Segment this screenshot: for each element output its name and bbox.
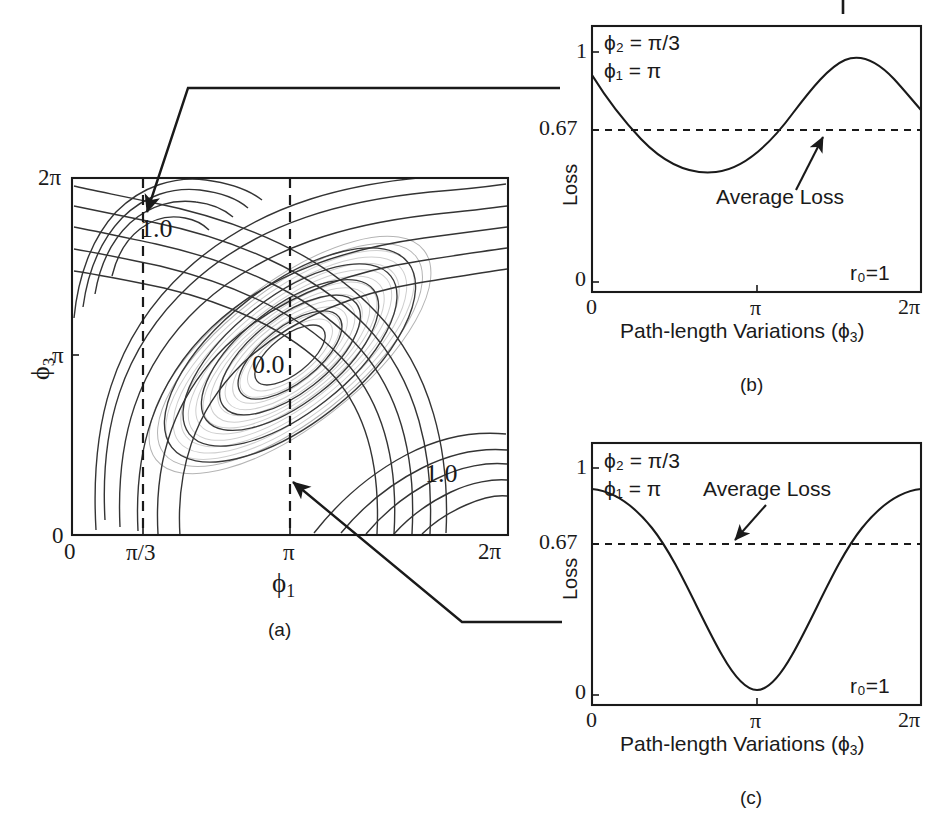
panel-c-annotation-r0: r₀=1 xyxy=(850,675,890,696)
panel-c-caption: (c) xyxy=(740,788,762,807)
panel-a-contour-label-max-bottom-right: 1.0 xyxy=(425,461,458,487)
panel-a-ylabel-base: ϕ xyxy=(26,366,55,380)
panel-b-ylabel: Loss xyxy=(560,164,580,206)
panel-a-ylabel-sub: 3 xyxy=(39,358,58,367)
figure-svg xyxy=(0,0,934,818)
panel-b-xtick-pi: π xyxy=(750,297,761,319)
panel-b-average-loss-label: Average Loss xyxy=(716,186,844,207)
panel-c-annotation-phi2: ϕ₂ = π/3 xyxy=(604,450,680,471)
panel-a-ylabel: ϕ3 xyxy=(28,358,57,380)
panel-b-caption: (b) xyxy=(740,375,763,394)
panel-a-ytick-0: 0 xyxy=(52,524,64,547)
panel-c-ylabel: Loss xyxy=(560,558,580,600)
panel-c-xlabel-phi: ϕ xyxy=(838,732,850,755)
panel-b-xlabel: Path-length Variations (ϕ3) xyxy=(620,320,864,345)
panel-c-annotation-phi1: ϕ₁ = π xyxy=(604,478,661,499)
panel-a-xlabel-base: ϕ xyxy=(272,568,286,598)
panel-a-xlabel: ϕ1 xyxy=(272,570,295,601)
panel-c-xtick-0: 0 xyxy=(586,709,597,731)
panel-c-xlabel: Path-length Variations (ϕ3) xyxy=(620,733,864,758)
panel-b-xlabel-text: Path-length Variations ( xyxy=(620,319,838,342)
panel-a-contour-label-min: 0.0 xyxy=(252,352,285,378)
panel-b-annotation-phi2: ϕ₂ = π/3 xyxy=(604,32,680,53)
panel-a-contour-label-max-top-left: 1.0 xyxy=(140,216,173,242)
leader-line-to-panel-b xyxy=(147,88,560,212)
panel-a-xtick-pi-over-3: π/3 xyxy=(126,541,156,564)
panel-a-xlabel-sub: 1 xyxy=(286,581,295,601)
leader-line-to-panel-c xyxy=(293,482,562,622)
panel-c-ytick-1: 1 xyxy=(576,456,587,478)
panel-a-ytick-2pi: 2π xyxy=(38,166,61,189)
panel-b-xlabel-phi: ϕ xyxy=(838,319,850,342)
panel-a-xtick-2pi: 2π xyxy=(478,540,501,563)
panel-a-caption: (a) xyxy=(268,620,291,639)
panel-c-xlabel-close: ) xyxy=(857,732,864,755)
panel-c-xtick-pi: π xyxy=(750,710,761,732)
panel-b-ytick-1: 1 xyxy=(576,40,587,62)
panel-b-xtick-0: 0 xyxy=(586,296,597,318)
panel-b-annotation-r0: r₀=1 xyxy=(850,262,890,283)
figure-root: 2π π 0 0 π/3 π 2π ϕ3 ϕ1 1.0 0.0 1.0 (a) … xyxy=(0,0,934,818)
panel-b-ytick-0: 0 xyxy=(575,268,586,290)
panel-c-xtick-2pi: 2π xyxy=(898,709,920,731)
panel-a-xtick-pi: π xyxy=(283,541,295,564)
panel-b-annotation-phi1: ϕ₁ = π xyxy=(604,60,661,81)
panel-c-loss-curve xyxy=(592,489,921,690)
panel-c-ytick-0: 0 xyxy=(575,681,586,703)
panel-c-ytick-067: 0.67 xyxy=(539,531,578,553)
panel-b-xlabel-close: ) xyxy=(857,319,864,342)
panel-a-xtick-0: 0 xyxy=(64,540,76,563)
panel-b-xtick-2pi: 2π xyxy=(898,296,920,318)
panel-c-xlabel-text: Path-length Variations ( xyxy=(620,732,838,755)
panel-c-average-loss-label: Average Loss xyxy=(703,478,831,499)
panel-c-average-loss-arrow xyxy=(735,505,766,540)
panel-b-average-loss-arrow xyxy=(796,137,823,190)
panel-b-ytick-067: 0.67 xyxy=(539,117,578,139)
panel-b-ticks xyxy=(592,52,757,292)
